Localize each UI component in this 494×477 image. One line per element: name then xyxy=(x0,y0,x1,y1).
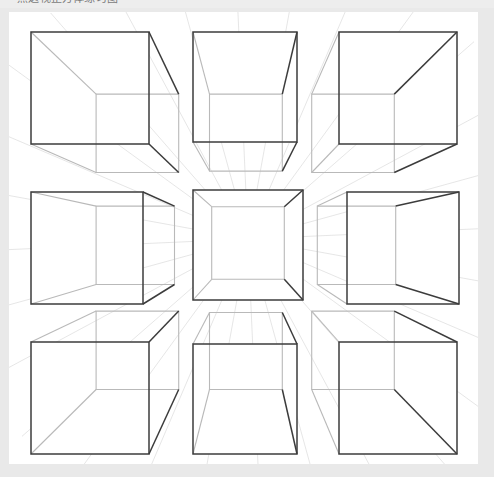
clipped-header-text: 一点透视正方体练习图 xyxy=(6,0,118,4)
cube-receding-edge xyxy=(31,144,96,173)
cube-bottom-middle xyxy=(193,313,297,455)
cube-receding-edge xyxy=(143,285,175,305)
cube-front-fill xyxy=(339,342,457,454)
cube-receding-edge xyxy=(149,311,179,342)
cube-receding-edge xyxy=(282,142,297,171)
cube-receding-edge xyxy=(312,311,339,342)
cube-receding-edge xyxy=(394,144,457,173)
cube-top-left xyxy=(31,32,179,173)
cube-center xyxy=(193,190,303,300)
cube-middle-left xyxy=(31,192,175,304)
page-edge-right xyxy=(478,0,494,477)
cube-bottom-left xyxy=(31,311,179,454)
cube-top-middle xyxy=(193,32,297,171)
clipped-header-strip: 一点透视正方体练习图 xyxy=(0,0,494,8)
page-edge-bottom xyxy=(0,464,494,477)
cube-top-right xyxy=(312,32,457,173)
drawing-card xyxy=(9,12,478,464)
cube-bottom-right xyxy=(312,311,457,454)
cube-receding-edge xyxy=(193,142,210,171)
cube-middle-right xyxy=(317,192,459,304)
cube-receding-edge xyxy=(143,192,175,206)
page-edge-left xyxy=(0,0,9,477)
cube-receding-edge xyxy=(312,32,339,94)
cube-receding-edge xyxy=(149,144,179,173)
cube-receding-edge xyxy=(317,285,347,305)
cube-front-fill xyxy=(193,344,297,454)
perspective-cube-diagram xyxy=(9,12,478,464)
figure-canvas xyxy=(9,12,478,464)
cube-receding-edge xyxy=(149,390,179,455)
cube-front-fill xyxy=(193,32,297,142)
cube-receding-edge xyxy=(31,311,96,342)
cube-receding-edge xyxy=(312,390,339,455)
cube-receding-edge xyxy=(312,144,339,173)
cube-layer xyxy=(31,32,459,454)
cube-receding-edge xyxy=(394,311,457,342)
cube-receding-edge xyxy=(193,313,210,345)
perspective-study-page: 一点透视正方体练习图 xyxy=(0,0,494,477)
